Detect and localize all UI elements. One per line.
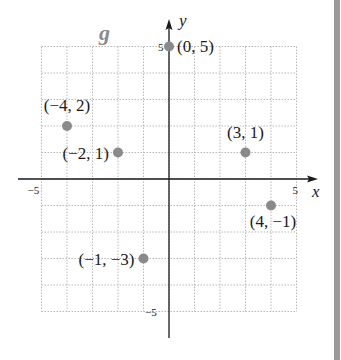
- data-point: [62, 121, 72, 131]
- point-label: (3, 1): [227, 123, 264, 142]
- data-point: [266, 201, 276, 211]
- function-name-label: g: [98, 20, 110, 45]
- data-point: [113, 148, 123, 158]
- point-label: (4, −1): [250, 212, 296, 231]
- y-axis-label: y: [177, 11, 187, 30]
- scatter-plot: −555−5 (0, 5)(−4, 2)(−2, 1)(3, 1)(4, −1)…: [0, 0, 341, 360]
- data-point: [241, 148, 251, 158]
- x-tick-label: −5: [28, 184, 40, 196]
- point-label: (0, 5): [177, 37, 214, 56]
- data-point: [164, 42, 174, 52]
- y-tick-label: −5: [145, 306, 157, 318]
- y-tick-label: 5: [158, 41, 164, 53]
- point-label: (−1, −3): [79, 250, 135, 269]
- axes: −555−5: [18, 19, 318, 338]
- point-label: (−4, 2): [44, 96, 90, 115]
- scrollbar[interactable]: [334, 0, 340, 360]
- x-axis-label: x: [311, 182, 320, 201]
- data-point: [139, 254, 149, 264]
- x-tick-label: 5: [293, 184, 299, 196]
- point-label: (−2, 1): [63, 144, 109, 163]
